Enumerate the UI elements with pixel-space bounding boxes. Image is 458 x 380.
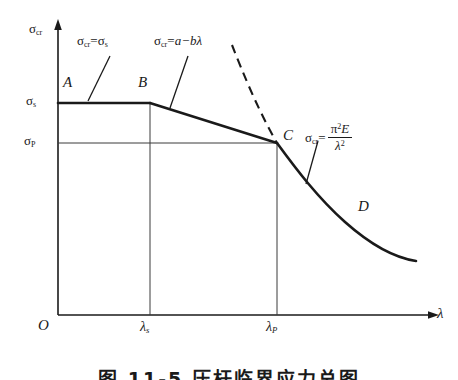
point-label-a: A: [63, 75, 72, 90]
point-label-d: D: [358, 199, 369, 214]
leader-line-yield: [88, 56, 110, 101]
y-tick-label-sigma-p: σP: [24, 134, 36, 147]
figure-caption: 图 11-5 压杆临界应力总图: [0, 364, 458, 380]
euler-numerator: π2E: [328, 122, 353, 137]
y-tick-label-sigma-s: σs: [26, 94, 36, 107]
euler-fraction: π2E λ2: [328, 122, 353, 152]
annotation-yield-equation: σcr=σs: [77, 34, 108, 47]
diagram-canvas: [0, 0, 458, 380]
x-tick-label-lambda-s: λs: [140, 320, 149, 334]
annotation-linear-equation: σcr=a−bλ: [154, 34, 202, 47]
point-label-b: B: [138, 75, 147, 90]
y-axis-arrowhead: [54, 19, 62, 30]
origin-label: O: [38, 318, 49, 333]
segment-euler-hyperbola-cd: [277, 143, 416, 261]
y-axis-label: σcr: [29, 22, 42, 35]
x-axis-label: λ: [437, 306, 444, 321]
euler-lhs: σcr=: [305, 131, 326, 144]
x-tick-label-lambda-p: λP: [266, 320, 277, 334]
annotation-euler-equation: σcr= π2E λ2: [305, 122, 352, 152]
reference-lines-group: [58, 103, 277, 315]
point-label-c: C: [283, 128, 293, 143]
euler-denominator: λ2: [332, 138, 348, 153]
axis-group: [54, 19, 439, 319]
segment-linear-empirical-bc: [150, 103, 277, 143]
figure-root: σcr λ O σs σP λs λP A B C D σcr=σs σcr=a…: [0, 0, 458, 380]
segment-euler-extension-dashed: [232, 45, 277, 143]
curve-group: [58, 45, 416, 261]
leader-line-linear: [170, 56, 188, 108]
